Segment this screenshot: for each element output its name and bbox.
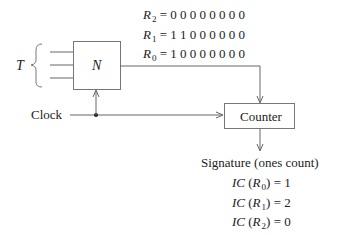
ones-count-r0: IC (R0) = 1 [232, 176, 291, 192]
register-r1: R1 = 1 1 0 0 0 0 0 0 [143, 28, 245, 44]
reg-sub: 1 [262, 202, 267, 212]
register-bits: 1 1 0 0 0 0 0 0 [170, 27, 245, 42]
register-name: R [143, 46, 151, 61]
register-name: R [143, 7, 151, 22]
register-sub: 2 [152, 14, 157, 24]
signature-title: Signature (ones count) [201, 156, 319, 169]
fn-name: IC [232, 175, 245, 190]
counter-label: Counter [240, 110, 282, 123]
input-brace [31, 44, 42, 87]
register-r0: R0 = 1 0 0 0 0 0 0 0 [143, 47, 245, 63]
count-value: 2 [284, 195, 291, 210]
reg-name: R [253, 195, 261, 210]
register-r2: R2 = 0 0 0 0 0 0 0 0 [143, 8, 245, 24]
reg-name: R [253, 214, 261, 229]
reg-sub: 2 [262, 221, 267, 231]
fn-name: IC [232, 214, 245, 229]
register-bits: 0 0 0 0 0 0 0 0 [170, 7, 245, 22]
register-name: R [143, 27, 151, 42]
register-sub: 1 [152, 34, 157, 44]
count-value: 1 [284, 175, 291, 190]
block-label-n: N [92, 59, 101, 73]
clock-label: Clock [31, 108, 62, 121]
input-label-t: T [16, 59, 24, 73]
count-value: 0 [284, 214, 291, 229]
reg-sub: 0 [262, 182, 267, 192]
register-sub: 0 [152, 53, 157, 63]
output-line [120, 66, 260, 102]
ones-count-r2: IC (R2) = 0 [232, 215, 291, 231]
register-bits: 1 0 0 0 0 0 0 0 [170, 46, 245, 61]
fn-name: IC [232, 195, 245, 210]
reg-name: R [253, 175, 261, 190]
ones-count-r1: IC (R1) = 2 [232, 196, 291, 212]
